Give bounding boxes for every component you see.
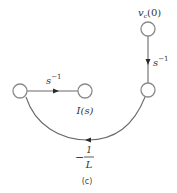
node-right [141, 83, 155, 97]
arrowhead-left-icon [85, 138, 91, 143]
edge-right-to-left [26, 97, 145, 140]
figure-caption: (c) [82, 177, 93, 186]
svg-text:L: L [85, 159, 93, 170]
edge-gain-curve: − 1 L [75, 145, 94, 170]
signal-flow-graph: s−1 s−1 − 1 L vc(0) I(s) (c) [0, 0, 177, 193]
node-Is [78, 84, 92, 98]
svg-text:−: − [75, 151, 84, 164]
edge-gain-horizontal: s−1 [46, 73, 61, 86]
arrowhead-right-icon [53, 89, 59, 94]
node-label-Is: I(s) [76, 105, 94, 116]
edge-gain-vertical: s−1 [153, 55, 168, 68]
node-left [13, 84, 27, 98]
svg-text:1: 1 [86, 145, 92, 155]
arrowhead-down-icon [146, 59, 151, 65]
node-label-vc0: vc(0) [138, 7, 161, 19]
node-vc0 [141, 22, 155, 36]
